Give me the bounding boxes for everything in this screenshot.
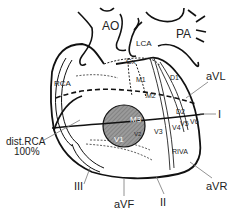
lead-i-label: I [218,108,221,120]
riva-label: RIVA [172,148,188,155]
d2-label: D2 [176,108,185,115]
d1-label: D1 [170,74,179,81]
heart-coronary-diagram: AO PA LCA Cx RCA M1 M2 M3 D1 D2 RIVA V1 … [0,0,232,212]
occlusion-percent-label: 100% [14,146,40,157]
lead-avf-label: aVF [114,198,134,210]
ao-label: AO [102,19,119,33]
m3-label: M3 [130,115,142,124]
pa-label: PA [176,27,191,41]
m1-label: M1 [136,76,146,83]
lead-ii-label: II [160,196,166,208]
pulmonary-artery [129,8,206,66]
v6-label: V6 [190,118,199,125]
v3-label: V3 [154,128,163,135]
infarct-area [103,105,145,147]
rca-label: RCA [54,79,72,88]
rca-vessel [55,58,104,172]
v2-label: V2 [134,131,142,137]
aorta [78,8,126,65]
v5-label: V5 [180,120,189,127]
v1-label: V1 [114,135,124,144]
m2-label: M2 [146,92,156,99]
lead-avr-label: aVR [206,180,227,192]
lca-label: LCA [136,39,152,48]
lead-iii-label: III [74,180,83,192]
lead-avl-label: aVL [206,70,226,82]
cx-label: Cx [126,57,136,66]
